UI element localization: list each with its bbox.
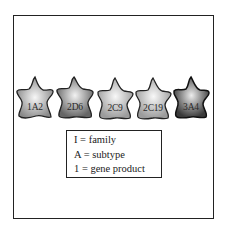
enzyme-shape-3a4: 3A4	[172, 76, 210, 120]
blob-star-icon	[56, 76, 94, 120]
blob-star-icon	[172, 76, 210, 120]
legend-line-gene-product: 1 = gene product	[74, 162, 161, 177]
blob-star-icon	[96, 77, 134, 121]
enzyme-shape-1a2: 1A2	[16, 76, 54, 120]
blob-star-icon	[16, 76, 54, 120]
enzyme-label: 2D6	[56, 102, 94, 112]
legend-line-subtype: A = subtype	[74, 148, 161, 163]
enzyme-shape-2d6: 2D6	[56, 76, 94, 120]
enzyme-label: 3A4	[172, 102, 210, 112]
legend-box: I = family A = subtype 1 = gene product	[66, 130, 162, 178]
legend-line-family: I = family	[74, 133, 161, 148]
enzyme-label: 2C9	[96, 103, 134, 113]
enzyme-label: 2C19	[134, 103, 172, 113]
enzyme-shape-2c19: 2C19	[134, 77, 172, 121]
enzyme-shapes: 1A2 2D6 2C9 2C19	[0, 0, 226, 233]
blob-star-icon	[134, 77, 172, 121]
enzyme-shape-2c9: 2C9	[96, 77, 134, 121]
enzyme-label: 1A2	[16, 102, 54, 112]
